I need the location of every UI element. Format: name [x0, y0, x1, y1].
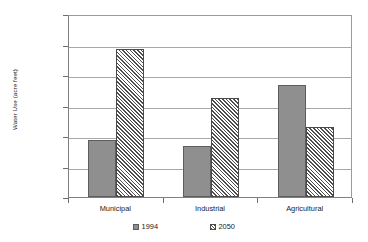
bar-municipal-2050 — [116, 49, 144, 197]
y-axis-title: Water Use (acre feet) — [11, 40, 18, 160]
x-axis-tick-mark — [163, 198, 164, 203]
legend-swatch-2050 — [210, 224, 216, 230]
bar-industrial-1994 — [183, 146, 211, 197]
legend-label-2050: 2050 — [219, 222, 235, 231]
gridline — [69, 47, 351, 48]
gridline — [69, 108, 351, 109]
gridline — [69, 77, 351, 78]
chart-legend: 19942050 — [0, 222, 368, 231]
x-axis-tick-mark — [257, 198, 258, 203]
bar-agricultural-2050 — [306, 127, 334, 197]
bar-chart: Water Use (acre feet) 01,000,0002,000,00… — [0, 0, 368, 242]
bar-industrial-2050 — [211, 98, 239, 197]
plot-area — [68, 15, 352, 198]
legend-swatch-1994 — [133, 224, 139, 230]
x-axis-category-label: Municipal — [65, 204, 165, 213]
x-axis-tick-mark — [352, 198, 353, 203]
x-axis-category-label: Industrial — [160, 204, 260, 213]
bar-municipal-1994 — [88, 140, 116, 197]
legend-label-1994: 1994 — [142, 222, 158, 231]
bar-agricultural-1994 — [278, 85, 306, 197]
x-axis-category-label: Agricultural — [255, 204, 355, 213]
legend-item-1994[interactable]: 1994 — [133, 222, 158, 231]
legend-item-2050[interactable]: 2050 — [210, 222, 235, 231]
x-axis-tick-mark — [68, 198, 69, 203]
